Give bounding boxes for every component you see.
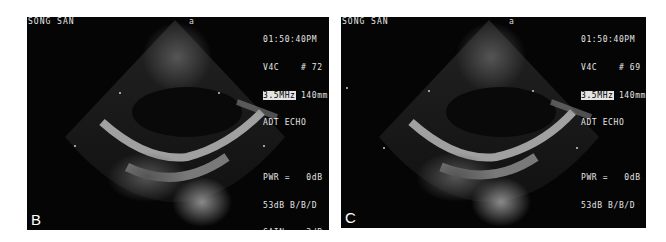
- orientation-marker: a: [189, 17, 194, 26]
- panel-label: C: [345, 209, 356, 226]
- frequency: 3.5MHz: [581, 91, 614, 100]
- probe-frame: V4C # 72: [263, 63, 328, 72]
- dynamic-range: 53dB B/B/D: [581, 201, 646, 210]
- mode: ADT ECHO: [581, 118, 646, 127]
- orientation-marker: a: [509, 17, 514, 26]
- panel-label: B: [31, 211, 41, 228]
- freq-depth: 3.5MHz 140mm: [581, 91, 646, 100]
- ultrasound-panel-c: SONG SAN a 01:50:40PM V4C # 69 3.5MHz 14…: [341, 17, 646, 228]
- probe-frame: V4C # 69: [581, 63, 646, 72]
- depth: 140mm: [301, 91, 328, 100]
- dynamic-range: 53dB B/B/D: [263, 201, 328, 210]
- depth: 140mm: [619, 91, 646, 100]
- acquisition-info: 01:50:40PM V4C # 72 3.5MHz 140mm ADT ECH…: [263, 17, 328, 230]
- depth-marker-dot: [218, 92, 220, 94]
- frame-number: 72: [312, 63, 323, 72]
- depth-marker-dot: [532, 90, 534, 92]
- ultrasound-panel-b: SONG SAN a 01:50:40PM V4C # 72 3.5MHz 14…: [27, 17, 329, 230]
- depth-marker-dot: [119, 92, 121, 94]
- power: PWR = 0dB: [263, 173, 328, 182]
- mode: ADT ECHO: [263, 118, 328, 127]
- acquisition-time: 01:50:40PM: [263, 35, 328, 44]
- depth-marker-dot: [346, 87, 348, 89]
- patient-name: SONG SAN: [342, 17, 389, 26]
- probe-name: V4C: [263, 63, 279, 72]
- frame-number: 69: [630, 63, 641, 72]
- power: PWR = 0dB: [581, 173, 646, 182]
- acquisition-info: 01:50:40PM V4C # 69 3.5MHz 140mm ADT ECH…: [581, 17, 646, 228]
- probe-name: V4C: [581, 63, 597, 72]
- depth-marker-dot: [383, 147, 385, 149]
- gain: GAIN= 3dB: [263, 228, 328, 230]
- depth-marker-dot: [428, 90, 430, 92]
- frequency: 3.5MHz: [263, 91, 296, 100]
- patient-name: SONG SAN: [28, 17, 75, 26]
- depth-marker-dot: [576, 147, 578, 149]
- depth-marker-dot: [74, 145, 76, 147]
- acquisition-time: 01:50:40PM: [581, 35, 646, 44]
- freq-depth: 3.5MHz 140mm: [263, 91, 328, 100]
